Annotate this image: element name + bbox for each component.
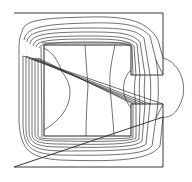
contour-diagram <box>0 0 192 182</box>
contour-line <box>85 45 88 136</box>
contour-line <box>156 60 158 118</box>
contour-line <box>150 75 151 104</box>
contour-line <box>144 75 145 104</box>
contour-line <box>44 48 70 130</box>
contour-line <box>139 75 140 104</box>
contour-plot <box>0 0 192 182</box>
